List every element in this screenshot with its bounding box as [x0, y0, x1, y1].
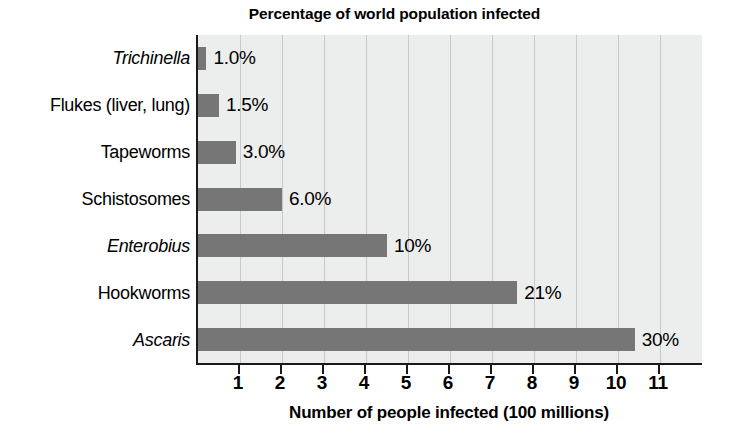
bar-value-label: 21% [524, 282, 561, 304]
bar-row: 10% [198, 234, 702, 257]
bar-value-label: 10% [394, 235, 431, 257]
bar[interactable] [198, 94, 219, 117]
category-label: Schistosomes [0, 189, 190, 210]
x-axis-title: Number of people infected (100 millions) [196, 403, 702, 423]
x-tick-label: 4 [359, 372, 369, 394]
y-axis-category-labels: TrichinellaFlukes (liver, lung)Tapeworms… [0, 35, 190, 363]
x-axis-tick-labels: 1234567891011 [196, 372, 702, 398]
x-tick-label: 11 [648, 372, 668, 394]
category-label: Enterobius [0, 235, 190, 256]
x-tick-label: 3 [317, 372, 327, 394]
bar-value-label: 3.0% [243, 141, 285, 163]
category-label: Tapeworms [0, 142, 190, 163]
category-label: Trichinella [0, 48, 190, 69]
bar[interactable] [198, 188, 282, 211]
x-tick-label: 7 [485, 372, 495, 394]
bars-layer: 1.0%1.5%3.0%6.0%10%21%30% [198, 35, 702, 363]
bar[interactable] [198, 328, 635, 351]
x-tick-label: 10 [606, 372, 627, 394]
category-label: Hookworms [0, 282, 190, 303]
bar-row: 3.0% [198, 141, 702, 164]
x-tick-label: 1 [233, 372, 243, 394]
bar-row: 1.0% [198, 47, 702, 70]
chart-title: Percentage of world population infected [0, 5, 729, 23]
plot-area: 1.0%1.5%3.0%6.0%10%21%30% [196, 35, 702, 365]
bar-row: 6.0% [198, 188, 702, 211]
bar-value-label: 1.5% [226, 94, 268, 116]
bar-row: 21% [198, 281, 702, 304]
bar-row: 1.5% [198, 94, 702, 117]
bar[interactable] [198, 234, 387, 257]
bar[interactable] [198, 281, 517, 304]
x-tick-label: 5 [401, 372, 411, 394]
bar-value-label: 30% [642, 329, 679, 351]
x-tick-label: 6 [443, 372, 453, 394]
bar-value-label: 1.0% [213, 47, 255, 69]
x-tick-label: 2 [275, 372, 285, 394]
bar-row: 30% [198, 328, 702, 351]
category-label: Ascaris [0, 329, 190, 350]
x-tick-label: 9 [569, 372, 579, 394]
bar[interactable] [198, 141, 236, 164]
x-tick-label: 8 [527, 372, 537, 394]
bar-value-label: 6.0% [289, 188, 331, 210]
chart-screenshot: Percentage of world population infected … [0, 0, 729, 441]
bar[interactable] [198, 47, 206, 70]
category-label: Flukes (liver, lung) [0, 95, 190, 116]
